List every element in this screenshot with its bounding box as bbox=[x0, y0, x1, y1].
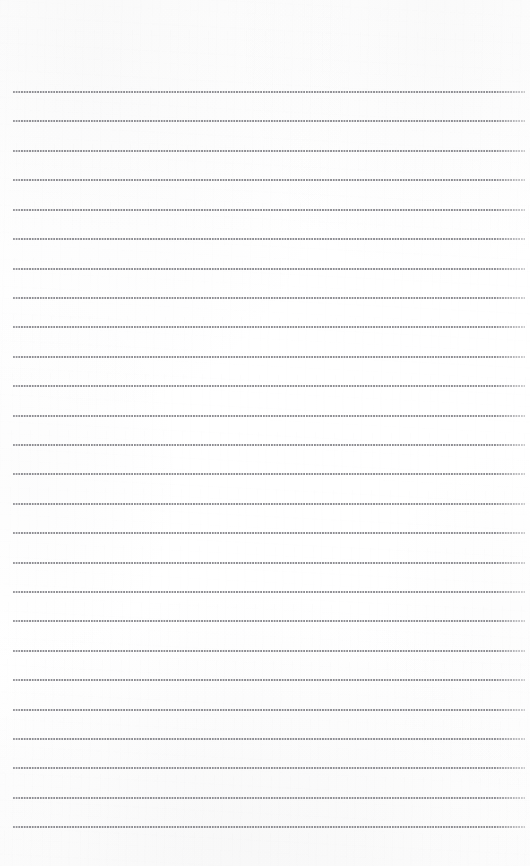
rule-line bbox=[13, 826, 525, 828]
writing-area[interactable] bbox=[13, 70, 525, 826]
notebook-page bbox=[0, 0, 530, 866]
